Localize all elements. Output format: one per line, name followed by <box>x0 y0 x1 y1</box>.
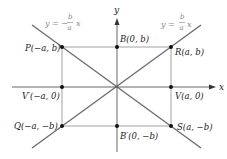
label-S: S(a, −b) <box>177 122 213 132</box>
point-B-prime <box>115 124 119 128</box>
label-R: R(a, b) <box>174 47 204 57</box>
svg-text:x: x <box>187 20 192 29</box>
point-V-prime <box>60 85 64 89</box>
y-axis-label: y <box>113 5 120 15</box>
point-R <box>169 45 173 49</box>
x-axis-arrow-icon <box>209 85 216 90</box>
y-axis-arrow-icon <box>115 18 120 25</box>
label-P: P(−a, b) <box>24 43 60 53</box>
label-B-prime: B′(0, −b) <box>119 131 158 141</box>
point-V <box>169 85 173 89</box>
point-B <box>115 45 119 49</box>
equation-positive-slope: y = b a x <box>160 13 192 32</box>
label-V: V(a, 0) <box>175 91 204 101</box>
equation-negative-slope: y = − b a x <box>44 13 81 32</box>
label-B: B(0, b) <box>119 34 149 44</box>
point-P <box>60 45 64 49</box>
point-S <box>169 124 173 128</box>
svg-text:a: a <box>180 24 184 32</box>
svg-text:a: a <box>68 24 72 32</box>
svg-text:b: b <box>68 13 73 21</box>
svg-text:x: x <box>76 19 81 28</box>
svg-text:y =: y = <box>160 20 175 29</box>
label-Q: Q(−a, −b) <box>14 121 58 131</box>
label-V-prime: V′(−a, 0) <box>22 91 60 101</box>
x-axis-label: x <box>219 82 224 92</box>
point-Q <box>60 124 64 128</box>
svg-text:b: b <box>180 13 185 21</box>
diagram-canvas: x y P(−a, b) B(0, b) R(a, b) V′(−a, 0) V… <box>0 0 227 159</box>
svg-text:y = −: y = − <box>44 19 68 28</box>
